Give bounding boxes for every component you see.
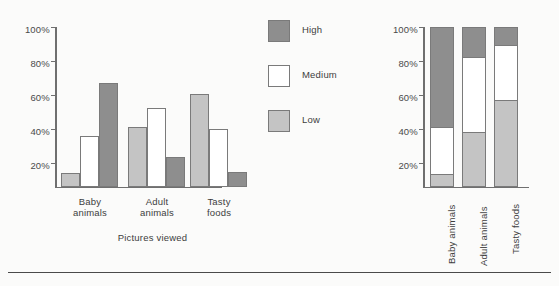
left-ytick-100: 100% — [14, 24, 50, 35]
stack-baby-high[interactable] — [430, 27, 454, 127]
right-ytick-80: 80% — [382, 58, 418, 69]
right-ytick-40: 40% — [382, 126, 418, 137]
stack-adult-low[interactable] — [462, 132, 486, 187]
left-y-axis — [55, 27, 57, 187]
left-category-tasty: Tasty foods — [188, 196, 250, 218]
right-tick-80 — [419, 61, 423, 62]
bar-adult-medium[interactable] — [147, 108, 166, 187]
legend-label-high: High — [302, 24, 322, 35]
right-ytick-20: 20% — [382, 160, 418, 171]
stack-adult-high[interactable] — [462, 27, 486, 57]
stack-adult-medium[interactable] — [462, 57, 486, 132]
figure-canvas: 100% 80% 60% 40% 20% Baby animals Adult … — [0, 0, 559, 286]
left-ytick-40: 40% — [14, 126, 50, 137]
left-tick-60 — [51, 95, 55, 96]
stack-baby-medium[interactable] — [430, 127, 454, 174]
legend-label-medium: Medium — [302, 69, 337, 80]
left-tick-20 — [51, 163, 55, 164]
left-x-axis-title: Pictures viewed — [55, 232, 250, 243]
left-ytick-80: 80% — [14, 58, 50, 69]
right-tick-100 — [419, 27, 423, 28]
right-ytick-100: 100% — [382, 24, 418, 35]
bar-baby-low[interactable] — [61, 173, 80, 187]
legend-swatch-low-icon — [268, 110, 290, 132]
footer-divider — [8, 272, 551, 273]
stack-tasty-medium[interactable] — [494, 45, 518, 100]
left-tick-40 — [51, 129, 55, 130]
right-category-baby: Baby animals — [446, 205, 457, 264]
legend: High Medium Low — [268, 20, 358, 140]
right-ytick-60: 60% — [382, 92, 418, 103]
right-category-adult: Adult animals — [478, 206, 489, 266]
legend-label-low: Low — [302, 114, 320, 125]
right-tick-40 — [419, 129, 423, 130]
left-tick-100 — [51, 27, 55, 28]
bar-adult-high[interactable] — [166, 157, 185, 187]
left-tick-80 — [51, 61, 55, 62]
right-tick-60 — [419, 95, 423, 96]
right-tick-20 — [419, 163, 423, 164]
bar-baby-high[interactable] — [99, 83, 118, 187]
left-category-baby: Baby animals — [59, 196, 121, 218]
stack-tasty-high[interactable] — [494, 27, 518, 45]
right-y-axis — [423, 27, 425, 187]
bar-adult-low[interactable] — [128, 127, 147, 187]
legend-swatch-high-icon — [268, 20, 290, 42]
legend-item-high[interactable]: High — [268, 20, 358, 42]
legend-item-medium[interactable]: Medium — [268, 65, 358, 87]
legend-swatch-medium-icon — [268, 65, 290, 87]
bar-tasty-low[interactable] — [190, 94, 209, 187]
bar-tasty-medium[interactable] — [209, 129, 228, 187]
left-ytick-20: 20% — [14, 160, 50, 171]
left-ytick-60: 60% — [14, 92, 50, 103]
bar-baby-medium[interactable] — [80, 136, 99, 187]
bar-tasty-high[interactable] — [228, 172, 247, 187]
right-category-tasty: Tasty foods — [510, 204, 521, 254]
left-category-adult: Adult animals — [126, 196, 188, 218]
legend-item-low[interactable]: Low — [268, 110, 358, 132]
stack-tasty-low[interactable] — [494, 100, 518, 187]
stack-baby-low[interactable] — [430, 174, 454, 187]
